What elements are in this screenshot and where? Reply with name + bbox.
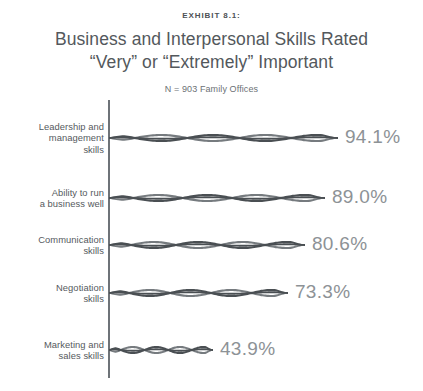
bar-value-label: 89.0% [332, 186, 387, 208]
bar-row: Communicationskills80.6% [0, 225, 423, 265]
bar-category-label: Leadership andmanagementskills [0, 121, 104, 155]
bar-value-label: 80.6% [312, 233, 367, 255]
bar-category-label-line: sales skills [0, 350, 104, 361]
bar-ribbon [109, 284, 290, 302]
bar-value-label: 94.1% [345, 126, 400, 148]
bar-category-label: Ability to runa business well [0, 187, 104, 210]
bar-row: Marketing andsales skills43.9% [0, 330, 423, 370]
bar-ribbon [109, 189, 327, 207]
bar-category-label-line: Leadership and [0, 121, 104, 132]
bar-category-label-line: a business well [0, 198, 104, 209]
bar-category-label-line: Communication [0, 234, 104, 245]
bar-category-label: Negotiationskills [0, 282, 104, 305]
bar-category-label: Marketing andsales skills [0, 339, 104, 362]
bar-category-label-line: Negotiation [0, 282, 104, 293]
bar-category-label-line: skills [0, 293, 104, 304]
bar-category-label-line: skills [0, 144, 104, 155]
bar-category-label: Communicationskills [0, 234, 104, 257]
bar-value-label: 43.9% [220, 338, 275, 360]
bar-category-label-line: skills [0, 245, 104, 256]
bar-category-label-line: management [0, 132, 104, 143]
bar-row: Leadership andmanagementskills94.1% [0, 118, 423, 158]
bar-ribbon [109, 129, 340, 147]
bar-ribbon [109, 341, 215, 359]
bar-value-label: 73.3% [295, 281, 350, 303]
bar-row: Ability to runa business well89.0% [0, 178, 423, 218]
plot-area: Leadership andmanagementskills94.1%Abili… [0, 0, 423, 391]
exhibit-chart: EXHIBIT 8.1: Business and Interpersonal … [0, 0, 423, 391]
bar-ribbon [109, 236, 307, 254]
bar-category-label-line: Marketing and [0, 339, 104, 350]
bar-row: Negotiationskills73.3% [0, 273, 423, 313]
bar-category-label-line: Ability to run [0, 187, 104, 198]
